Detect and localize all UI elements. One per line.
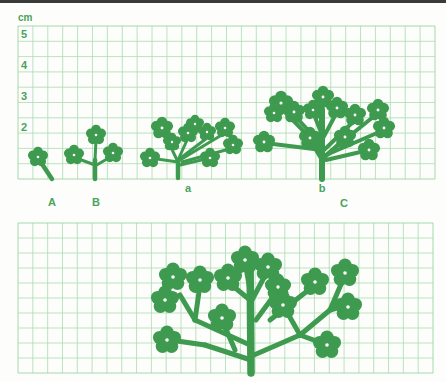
flower-icon	[200, 148, 220, 168]
plant-growth-figure: cm 5432 ABabC	[0, 0, 446, 382]
stem	[254, 335, 300, 355]
stem	[42, 164, 52, 179]
plant-label: B	[92, 196, 100, 208]
y-tick-label: 5	[21, 28, 27, 40]
stems	[42, 164, 52, 179]
figure-canvas: cm 5432 ABabC	[0, 0, 446, 382]
flower-icon	[215, 118, 235, 138]
y-axis-ticks: 5432	[21, 28, 28, 133]
y-tick-label: 4	[21, 59, 28, 71]
plant-label: C	[340, 197, 348, 209]
y-tick-label: 2	[21, 121, 27, 133]
flower-icon	[153, 326, 181, 353]
flower-icon	[28, 147, 48, 167]
plant-labels: ABabC	[48, 182, 348, 209]
plant-label: A	[48, 196, 56, 208]
plant-label: a	[185, 182, 192, 194]
flower-icon	[367, 99, 389, 121]
flower-icon	[313, 331, 341, 358]
flower-icon	[140, 148, 160, 168]
flower-icon	[186, 266, 214, 293]
plant-a	[140, 115, 243, 178]
flower-icon	[103, 143, 123, 163]
flower-icon	[334, 126, 356, 148]
plants	[28, 86, 395, 373]
flower-icon	[373, 117, 395, 139]
y-tick-label: 3	[21, 90, 27, 102]
plant-C	[151, 246, 362, 373]
flower-icon	[331, 259, 359, 286]
plant-b	[253, 86, 395, 179]
flower-icon	[223, 135, 243, 155]
flower-icon	[86, 125, 106, 145]
plant-A	[28, 147, 52, 179]
flower-icon	[151, 286, 179, 313]
flower-icon	[208, 304, 236, 331]
flower-icon	[64, 145, 84, 165]
unit-label: cm	[18, 12, 33, 23]
plant-label: b	[319, 182, 326, 194]
stem	[180, 295, 195, 320]
flower-icon	[301, 268, 329, 295]
